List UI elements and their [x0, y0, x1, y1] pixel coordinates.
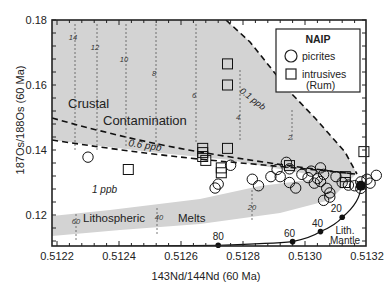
mantle-curve-point — [318, 229, 324, 235]
melts-label: Melts — [178, 212, 206, 224]
crustal-label: Crustal — [68, 96, 109, 111]
crustal-tick-label: 2 — [287, 133, 293, 142]
picrite-point — [225, 160, 235, 170]
x-axis-label: 143Nd/144Nd (60 Ma) — [152, 270, 261, 282]
legend-circle-icon — [285, 50, 297, 62]
picrite-point — [247, 174, 257, 184]
x-tick-label: 0.5130 — [288, 250, 322, 262]
crustal-tick-label: 10 — [120, 55, 129, 64]
mantle-curve-point — [290, 239, 296, 245]
lith-tick-label: 60 — [72, 217, 81, 226]
chart: 1412108642604020 80604020 0.51220.51240.… — [0, 0, 392, 288]
y-tick-label: 0.12 — [26, 209, 47, 221]
contamination-label: Contamination — [103, 113, 187, 128]
mantle-curve-point — [339, 214, 345, 220]
mantle-point-label: 20 — [331, 203, 343, 214]
crustal-tick-label: 4 — [236, 113, 240, 122]
y-tick-label: 0.16 — [26, 79, 47, 91]
crustal-tick-label: 12 — [91, 43, 100, 52]
legend-rum: (Rum) — [306, 79, 335, 91]
y-tick-label: 0.18 — [26, 14, 47, 26]
x-tick-label: 0.5132 — [350, 250, 384, 262]
x-tick-label: 0.5126 — [164, 250, 198, 262]
legend: NAIP picrites intrusives (Rum) — [276, 29, 360, 92]
mantle-point-label: 80 — [213, 231, 225, 242]
x-tick-label: 0.5124 — [102, 250, 136, 262]
intrusive-point — [123, 165, 133, 175]
x-tick-label: 0.5122 — [40, 250, 74, 262]
lith-tick-label: 20 — [247, 203, 257, 212]
intrusive-point — [359, 147, 369, 157]
picrite-point — [371, 170, 381, 180]
y-axis-label: 187Os/188Os (60 Ma) — [14, 66, 26, 175]
lith-tick-label: 40 — [155, 213, 164, 222]
picrite-point — [83, 152, 93, 162]
legend-square-icon — [286, 69, 296, 79]
curve-label-1ppb: 1 ppb — [92, 184, 117, 195]
mantle-point-label: 60 — [284, 228, 296, 239]
mantle-label: Mantle — [330, 235, 360, 246]
legend-title: NAIP — [305, 33, 330, 45]
lithospheric-label: Lithospheric — [83, 212, 145, 224]
mantle-point-label: 40 — [312, 218, 324, 229]
legend-picrites: picrites — [302, 50, 335, 62]
y-tick-label: 0.14 — [26, 144, 47, 156]
crustal-tick-label: 14 — [69, 33, 77, 42]
x-tick-label: 0.5128 — [226, 250, 260, 262]
